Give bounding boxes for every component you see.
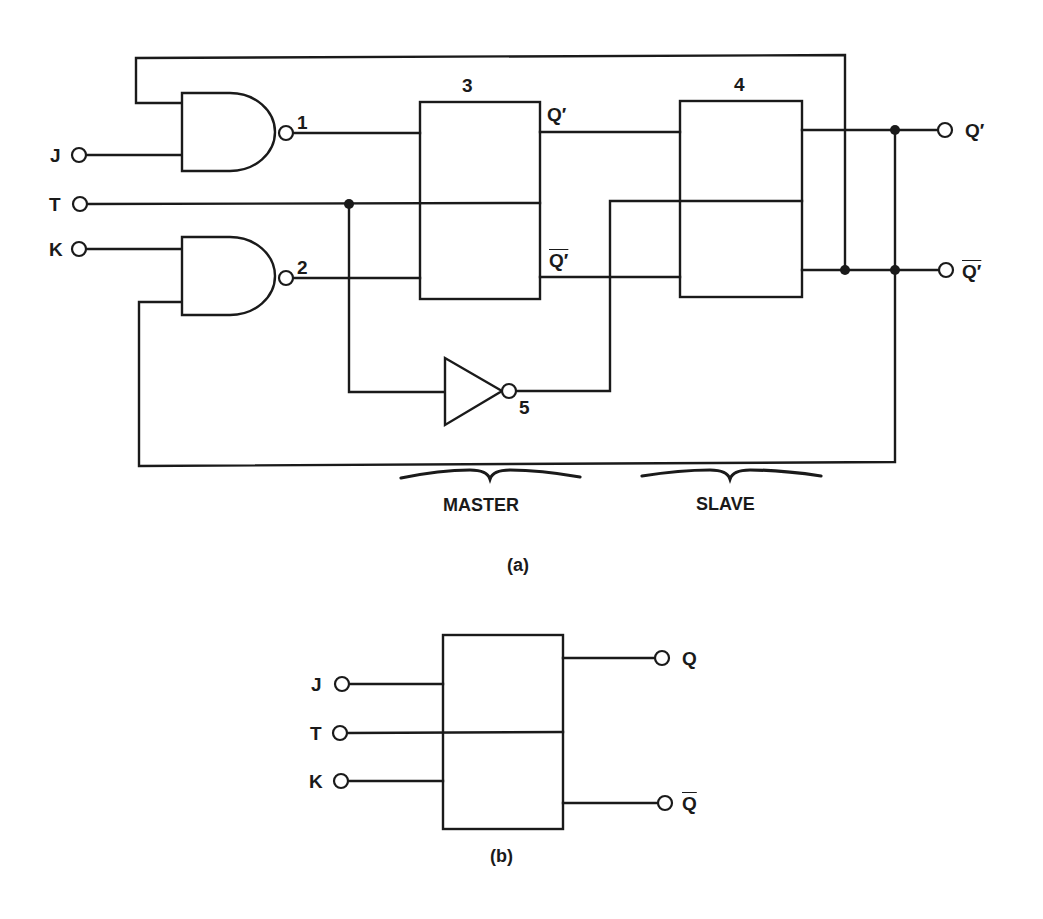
b-qbar-output-label: Q <box>682 794 697 813</box>
slave-flip-flop-block <box>680 101 802 297</box>
b-q-terminal[interactable] <box>655 651 669 665</box>
qbar-output-junction-dot <box>890 265 900 275</box>
qbar-feedback-junction-dot <box>840 265 850 275</box>
nand1-bubble <box>279 126 293 140</box>
t-input-wire <box>87 203 540 204</box>
gate-1-label: 1 <box>297 113 308 132</box>
figure-b-caption: (b) <box>490 847 513 865</box>
nand2-bubble <box>279 271 293 285</box>
master-brace <box>401 470 580 479</box>
inverter5-bubble <box>502 384 516 398</box>
nand-gate-1 <box>182 93 275 171</box>
figure-a-caption: (a) <box>507 556 529 574</box>
t-junction-dot <box>344 199 354 209</box>
k-terminal[interactable] <box>72 242 86 256</box>
slave-section-label: SLAVE <box>696 495 755 513</box>
t-terminal[interactable] <box>73 197 87 211</box>
b-t-input-label: T <box>310 724 322 743</box>
jk-master-slave-flip-flop-diagram <box>0 0 1043 919</box>
b-qbar-terminal[interactable] <box>658 796 672 810</box>
nand-gate-2 <box>182 237 275 315</box>
slave-brace <box>642 470 821 479</box>
qbar-prime-terminal[interactable] <box>939 263 953 277</box>
q-output-junction-dot <box>890 125 900 135</box>
block-3-label: 3 <box>462 76 473 95</box>
b-k-input-label: K <box>309 772 323 791</box>
b-j-terminal[interactable] <box>335 677 349 691</box>
b-t-terminal[interactable] <box>333 726 347 740</box>
b-q-output-label: Q <box>682 649 697 668</box>
b-j-input-label: J <box>311 675 322 694</box>
master-q-prime-label: Q′ <box>547 105 566 124</box>
block-4-label: 4 <box>734 75 745 94</box>
b-t-input-wire <box>348 732 563 733</box>
gate-2-label: 2 <box>297 258 308 277</box>
master-qbar-prime-label: Q′ <box>549 251 568 270</box>
gate-5-label: 5 <box>519 398 530 417</box>
t-input-label: T <box>49 195 61 214</box>
j-terminal[interactable] <box>72 148 86 162</box>
b-k-terminal[interactable] <box>334 774 348 788</box>
inverter-gate-5 <box>445 358 502 425</box>
master-flip-flop-block <box>420 102 540 299</box>
qbar-prime-output-label: Q′ <box>962 262 981 281</box>
master-section-label: MASTER <box>443 496 519 514</box>
q-prime-terminal[interactable] <box>938 123 952 137</box>
q-prime-output-label: Q′ <box>965 121 984 140</box>
k-input-label: K <box>49 240 63 259</box>
j-input-label: J <box>50 146 61 165</box>
